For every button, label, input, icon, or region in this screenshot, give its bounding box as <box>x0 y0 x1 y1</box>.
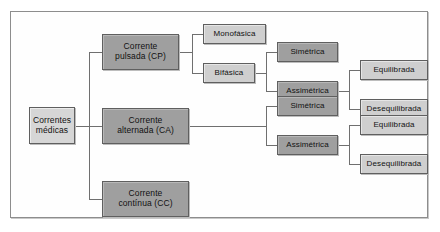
connector-bifasica-to-assimetrica <box>266 91 277 92</box>
node-label: Assimétrica <box>283 87 331 96</box>
connector-trunk-to-cp <box>89 52 102 53</box>
connector-cp-split-vertical <box>192 34 193 74</box>
connector-trunk-to-ca <box>89 126 102 127</box>
node-label: Desequilibrada <box>364 160 425 169</box>
connector-ca-to-split <box>179 126 266 127</box>
node-label: Corrente pulsada (CP) <box>112 42 169 61</box>
connector-cp-assimetrica-to-desequilibrada <box>349 109 360 110</box>
node-corrente-pulsada[interactable]: Corrente pulsada (CP) <box>102 34 179 70</box>
node-label: Correntes médicas <box>30 116 74 135</box>
diagram-frame: Correntes médicas Corrente pulsada (CP) … <box>10 11 428 218</box>
node-ca-assimetrica[interactable]: Assimétrica <box>277 135 338 155</box>
node-bifasica[interactable]: Bifásica <box>203 63 255 83</box>
node-label: Equilibrada <box>370 121 417 130</box>
connector-bifasica-split-vertical <box>266 52 267 91</box>
connector-ca-assimetrica-to-split <box>338 145 349 146</box>
connector-cp-assimetrica-to-equilibrada <box>349 70 360 71</box>
node-corrente-alternada[interactable]: Corrente alternada (CA) <box>102 108 189 144</box>
node-ca-desequilibrada[interactable]: Desequilibrada <box>360 154 428 174</box>
node-label: Simétrica <box>287 48 327 57</box>
node-label: Simétrica <box>287 102 327 111</box>
connector-ca-assimetrica-split-vertical <box>349 125 350 164</box>
node-cp-simetrica[interactable]: Simétrica <box>277 42 338 62</box>
connector-ca-to-assimetrica <box>266 145 277 146</box>
node-label: Corrente contínua (CC) <box>115 189 175 208</box>
connector-ca-assimetrica-to-equilibrada <box>349 125 360 126</box>
node-cp-equilibrada[interactable]: Equilibrada <box>360 60 428 80</box>
connector-trunk-to-cc <box>89 199 102 200</box>
connector-ca-assimetrica-to-desequilibrada <box>349 164 360 165</box>
connector-ca-split-vertical <box>266 106 267 146</box>
node-label: Desequilibrada <box>364 105 425 114</box>
node-label: Bifásica <box>212 69 247 78</box>
connector-root-to-trunk <box>75 126 89 127</box>
connector-cp-to-monofasica <box>192 34 203 35</box>
node-ca-equilibrada[interactable]: Equilibrada <box>360 115 428 135</box>
connector-cp-assimetrica-to-split <box>338 91 349 92</box>
node-correntes-medicas[interactable]: Correntes médicas <box>29 107 75 144</box>
node-ca-simetrica[interactable]: Simétrica <box>277 96 338 116</box>
connector-bifasica-to-simetrica <box>266 52 277 53</box>
node-label: Corrente alternada (CA) <box>114 116 177 135</box>
connector-cp-to-bifasica <box>192 73 203 74</box>
node-corrente-continua[interactable]: Corrente contínua (CC) <box>102 181 189 217</box>
diagram-canvas: Correntes médicas Corrente pulsada (CP) … <box>0 0 440 232</box>
connector-cp-to-split <box>179 52 192 53</box>
connector-bifasica-to-split <box>255 73 266 74</box>
node-label: Monofásica <box>211 30 259 39</box>
node-label: Equilibrada <box>370 66 417 75</box>
node-monofasica[interactable]: Monofásica <box>203 24 266 44</box>
node-label: Assimétrica <box>283 141 331 150</box>
connector-ca-to-simetrica <box>266 106 277 107</box>
connector-cp-assimetrica-split-vertical <box>349 70 350 109</box>
